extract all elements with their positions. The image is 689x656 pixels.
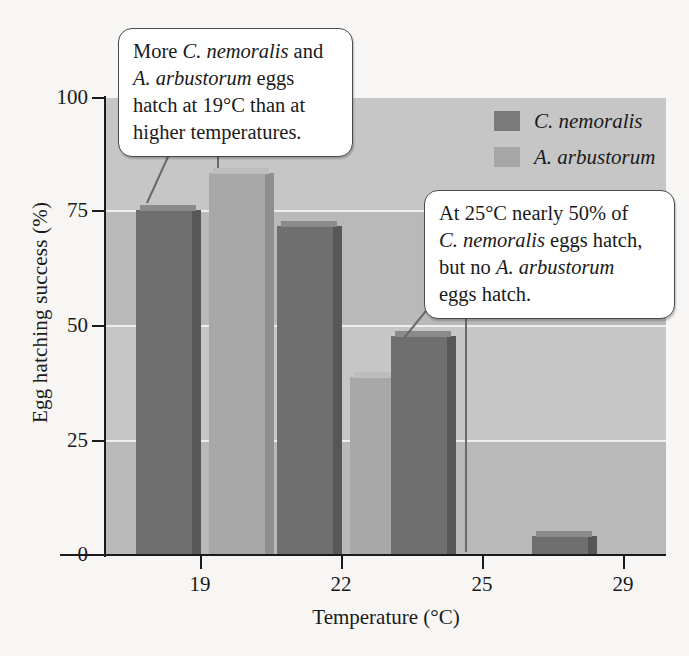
x-tick-label-25: 25 <box>447 572 517 597</box>
y-tick-label-0: 0 <box>28 544 88 565</box>
bar-22-c-nemoralis <box>277 226 333 555</box>
callout-1-line-2: A. arbustorum eggs <box>133 65 339 92</box>
y-tick-25 <box>92 440 105 442</box>
x-axis-title: Temperature (°C) <box>106 605 666 630</box>
chart-figure: 100 75 50 25 0 19 22 25 29 Egg hatching … <box>0 0 689 656</box>
x-tick-25 <box>482 556 484 569</box>
callout-1-line-1: More C. nemoralis and <box>133 38 339 65</box>
bar-face <box>391 336 447 555</box>
bar-top <box>395 331 451 337</box>
bar-25-c-nemoralis <box>391 336 447 555</box>
callout-2-line-4: eggs hatch. <box>439 281 661 308</box>
x-tick-29 <box>623 556 625 569</box>
bar-top <box>213 168 269 174</box>
legend-label: C. nemoralis <box>534 109 643 134</box>
callout-1-line-3: hatch at 19°C than at <box>133 92 339 119</box>
bar-side <box>333 226 342 555</box>
bar-top <box>140 205 196 211</box>
callout-2-line-1: At 25°C nearly 50% of <box>439 200 661 227</box>
callout-1-line-4: higher temperatures. <box>133 119 339 146</box>
bar-face <box>277 226 333 555</box>
bar-face <box>136 210 192 555</box>
legend: C. nemoralis A. arbustorum <box>494 108 655 180</box>
y-tick-100 <box>92 97 105 99</box>
bar-top <box>281 221 337 227</box>
legend-item-c-nemoralis: C. nemoralis <box>494 108 655 134</box>
bar-side <box>588 536 597 555</box>
bar-29-c-nemoralis <box>532 536 588 555</box>
x-axis-line <box>60 554 666 556</box>
bar-face <box>209 173 265 555</box>
x-tick-22 <box>341 556 343 569</box>
legend-item-a-arbustorum: A. arbustorum <box>494 144 655 170</box>
legend-swatch-icon <box>494 147 520 167</box>
legend-swatch-icon <box>494 111 520 131</box>
bar-side <box>447 336 456 555</box>
bar-face <box>532 536 588 555</box>
y-tick-0 <box>92 554 105 556</box>
legend-label: A. arbustorum <box>534 145 655 170</box>
bar-top <box>536 531 592 537</box>
bar-side <box>192 210 201 555</box>
x-tick-label-22: 22 <box>306 572 376 597</box>
x-tick-19 <box>200 556 202 569</box>
y-axis-title: Egg hatching success (%) <box>28 113 53 513</box>
bar-19-c-nemoralis <box>136 210 192 555</box>
x-tick-label-29: 29 <box>588 572 658 597</box>
callout-box-19c: More C. nemoralis and A. arbustorum eggs… <box>118 28 353 157</box>
y-tick-50 <box>92 325 105 327</box>
bar-19-a-arbustorum <box>209 173 265 555</box>
x-tick-label-19: 19 <box>165 572 235 597</box>
callout-2-line-2: C. nemoralis eggs hatch, <box>439 227 661 254</box>
callout-2-line-3: but no A. arbustorum <box>439 254 661 281</box>
callout-box-25c: At 25°C nearly 50% of C. nemoralis eggs … <box>424 190 675 319</box>
y-tick-75 <box>92 210 105 212</box>
y-tick-label-100: 100 <box>28 87 88 108</box>
bar-side <box>265 173 274 555</box>
